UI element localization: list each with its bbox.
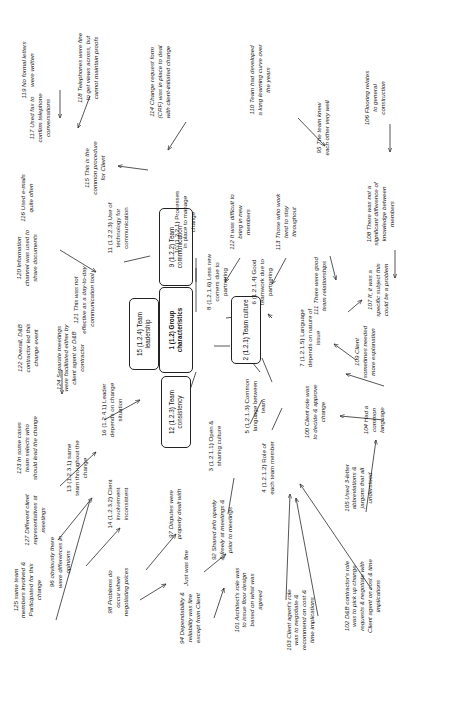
connector bbox=[86, 528, 120, 566]
diagram-label: 11 (1.2.2.3) Use of technology for commu… bbox=[101, 195, 135, 261]
diagram-label: 120 Information channel was used to shar… bbox=[9, 226, 45, 290]
connector bbox=[272, 408, 282, 430]
diagram-label: 95 The team knew each other very well bbox=[308, 97, 338, 159]
diagram-canvas: 1 (1.2) Group characteristics2 (1.2.1) T… bbox=[0, 0, 450, 703]
diagram-node[interactable]: 12 (1.2.3) Team consistency bbox=[161, 376, 191, 448]
connector bbox=[268, 314, 272, 318]
diagram-label: 97 Disputes were properly dealt with bbox=[163, 486, 187, 542]
diagram-label: 115 This is the common procedure for Cli… bbox=[80, 139, 110, 197]
diagram-label: 109 Client sometimes needed more explana… bbox=[350, 323, 380, 381]
diagram-label: 107 If, it was a specific subject this c… bbox=[360, 259, 396, 321]
diagram-label: 103 Client agent's role was to negotiate… bbox=[278, 585, 322, 655]
diagram-label: 113 Those who work tend to stay througho… bbox=[270, 193, 302, 251]
diagram-label: 110 Team had developed a long learning c… bbox=[241, 43, 279, 117]
diagram-label: 8 (1.2.1.6) Less new comers due to partn… bbox=[201, 251, 233, 313]
diagram-label: 123 In some cases team selects who shoul… bbox=[8, 415, 46, 481]
connector bbox=[140, 584, 166, 600]
diagram-label: 104 Had a common language bbox=[363, 395, 385, 445]
diagram-label: 10 (1.2.2.1) Processes in place to manag… bbox=[168, 189, 202, 255]
diagram-label: 101 Architect's role was to issue floor … bbox=[228, 567, 268, 633]
diagram-label: 7 (1.2.1.5) Language depends on nature o… bbox=[294, 307, 326, 369]
diagram-label: 14 (1.2.3.2) Client involvement inconsis… bbox=[103, 476, 133, 532]
diagram-label: 16 (1.2.4.1) Leader depends on change si… bbox=[96, 380, 128, 440]
diagram-label: 5 (1.2.1.3) Common language between team bbox=[239, 375, 271, 437]
diagram-node[interactable]: 1 (1.2) Group characteristics bbox=[159, 287, 193, 373]
diagram-label: 108 There was not a significant differen… bbox=[359, 179, 401, 249]
connector bbox=[214, 588, 224, 618]
diagram-label: 125 same team members involved & Partici… bbox=[9, 559, 45, 621]
diagram-label: 100 Client role was to decide & approve … bbox=[300, 384, 330, 440]
diagram-label: 3 (1.2.1.1) Open & sharing culture bbox=[202, 418, 228, 474]
diagram-label: 117 Used fax to confirm telephone conver… bbox=[24, 88, 56, 148]
diagram-label: 92 Shared info openly & freely at meetin… bbox=[203, 499, 241, 561]
diagram-label: 122 Overall, D&B contractor led this cha… bbox=[13, 318, 43, 378]
diagram-label: 96 obviously there were differences in o… bbox=[45, 533, 75, 591]
diagram-label: 105 Used 3-letter abbreviations & jargon… bbox=[341, 458, 375, 518]
diagram-label: 98 Problems do occur when negotiating pr… bbox=[103, 564, 133, 620]
connector bbox=[118, 166, 148, 170]
diagram-label: 106 Flooring relates to general construc… bbox=[360, 69, 390, 127]
diagram-label: 94 Dependability & reliability was fine … bbox=[173, 587, 207, 649]
diagram-label: 124 Separate meetings were facilitated e… bbox=[48, 321, 92, 395]
diagram-label: Just was fine bbox=[179, 546, 193, 590]
diagram-label: 118 Telephones were fine to get views ac… bbox=[67, 30, 109, 106]
connector bbox=[168, 122, 186, 150]
diagram-label: 116 Used e-mails quite often bbox=[15, 169, 39, 227]
diagram-label: 6 (1.2.1.4) Good teamwork due to partner… bbox=[246, 251, 278, 313]
diagram-label: 13 (1.2.3.1) same team throughout the ch… bbox=[62, 438, 92, 498]
diagram-node[interactable]: 15 (1.2.4) Team leadership bbox=[129, 298, 159, 370]
diagram-label: 4 (1.2.1.2) Role of each team member bbox=[254, 440, 282, 496]
diagram-label: 114 Change request form (CRF) was in pla… bbox=[138, 42, 182, 122]
diagram-label: 112 It was difficult to bring in new mem… bbox=[224, 193, 256, 251]
diagram-label: 102 D&B contractor's role was to pick up… bbox=[334, 557, 390, 635]
